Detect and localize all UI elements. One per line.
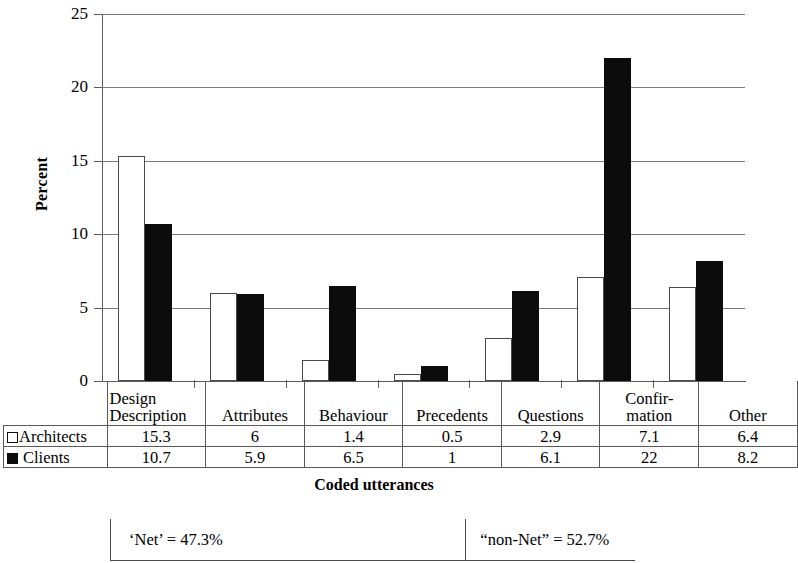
table-row: Architects15.361.40.52.97.16.4 — [4, 426, 798, 447]
bar-architects-attributes — [210, 293, 237, 381]
x-axis-title: Coded utterances — [0, 476, 748, 494]
table-cell: 1.4 — [304, 426, 403, 447]
bar-architects-precedents — [394, 374, 421, 381]
y-axis-line — [102, 14, 103, 382]
table-header-questions: Questions — [501, 381, 600, 426]
gridline — [102, 234, 745, 235]
filled-square-icon — [7, 453, 18, 464]
table-header-attributes: Attributes — [206, 381, 305, 426]
y-axis-tick — [94, 87, 102, 88]
y-axis-tick — [94, 308, 102, 309]
table-row: Clients10.75.96.516.1228.2 — [4, 447, 798, 468]
table-cell: 10.7 — [107, 447, 206, 468]
legend-item-clients: Clients — [4, 447, 108, 468]
table-header-precedents: Precedents — [403, 381, 502, 426]
legend-item-architects: Architects — [4, 426, 108, 447]
table-cell: 8.2 — [699, 447, 798, 468]
table-cell: 2.9 — [501, 426, 600, 447]
bar-architects-other — [669, 287, 696, 381]
bar-architects-design-description — [118, 156, 145, 381]
y-axis-tick-label: 5 — [46, 299, 88, 316]
table-header-other: Other — [699, 381, 798, 426]
table-header-row: DesignDescription Attributes Behaviour P… — [4, 381, 798, 426]
table-cell: 1 — [403, 447, 502, 468]
table-cell: 15.3 — [107, 426, 206, 447]
table-header-behaviour: Behaviour — [304, 381, 403, 426]
y-axis-tick-label: 10 — [46, 225, 88, 242]
y-axis-tick-label: 20 — [46, 78, 88, 95]
bar-clients-questions — [512, 291, 539, 381]
bar-clients-design-description — [145, 224, 172, 381]
table-cell: 22 — [600, 447, 699, 468]
table-cell: 0.5 — [403, 426, 502, 447]
table-cell: 6.5 — [304, 447, 403, 468]
bar-clients-precedents — [421, 366, 448, 381]
y-axis-tick — [94, 14, 102, 15]
table-cell: 6 — [206, 426, 305, 447]
bar-clients-other — [696, 261, 723, 381]
gridline — [102, 161, 745, 162]
y-axis-tick — [94, 234, 102, 235]
net-note: ‘Net’ = 47.3% — [111, 519, 465, 560]
table-cell: 5.9 — [206, 447, 305, 468]
bar-clients-behaviour — [329, 286, 356, 381]
table-cell: 6.1 — [501, 447, 600, 468]
legend-label: Clients — [23, 448, 70, 467]
bar-architects-confirmation — [577, 277, 604, 381]
summary-note-box: ‘Net’ = 47.3% “non-Net” = 52.7% — [110, 519, 635, 561]
table-cell: 6.4 — [699, 426, 798, 447]
bar-clients-confirmation — [604, 58, 631, 381]
legend-label: Architects — [19, 427, 87, 446]
gridline — [102, 14, 745, 15]
y-axis-tick-label: 25 — [46, 5, 88, 22]
gridline — [102, 87, 745, 88]
table-header-confirmation: Confir-mation — [600, 381, 699, 426]
bar-clients-attributes — [237, 294, 264, 381]
plot-area: 0510152025 — [102, 14, 745, 381]
table-header-design-description: DesignDescription — [107, 381, 206, 426]
bar-architects-behaviour — [302, 360, 329, 381]
bar-architects-questions — [485, 338, 512, 381]
table-cell: 7.1 — [600, 426, 699, 447]
table-corner-cell — [4, 381, 108, 426]
y-axis-tick — [94, 161, 102, 162]
non-net-note: “non-Net” = 52.7% — [465, 519, 635, 560]
gridline — [102, 308, 745, 309]
open-square-icon — [7, 432, 18, 443]
y-axis-tick-label: 15 — [46, 152, 88, 169]
data-table: DesignDescription Attributes Behaviour P… — [3, 381, 798, 468]
